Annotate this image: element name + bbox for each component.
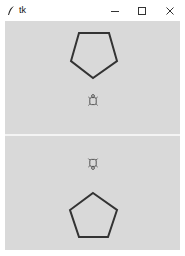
pentagon-shape (70, 193, 117, 237)
close-icon (165, 6, 175, 16)
close-button[interactable] (155, 0, 185, 21)
pentagon-shape (71, 33, 117, 78)
bottom-canvas[interactable] (5, 136, 180, 250)
title-bar: tk (0, 0, 185, 21)
maximize-icon (137, 6, 147, 16)
minimize-icon (110, 6, 120, 16)
top-canvas[interactable] (5, 21, 180, 134)
minimize-button[interactable] (100, 0, 130, 21)
maximize-button[interactable] (127, 0, 157, 21)
window-title: tk (19, 4, 26, 16)
feather-icon (6, 5, 16, 16)
turtle-icon (88, 159, 97, 170)
turtle-icon (88, 95, 97, 106)
